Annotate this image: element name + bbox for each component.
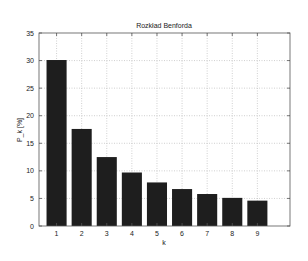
bar-k-4 (122, 173, 142, 226)
bar-k-1 (47, 60, 67, 226)
bar-k-6 (172, 189, 192, 226)
x-tick-label: 1 (55, 230, 59, 237)
x-tick-label: 6 (180, 230, 184, 237)
y-axis-label: P_k [%] (16, 118, 24, 142)
bar-k-3 (97, 157, 117, 226)
y-tick-label: 10 (26, 167, 34, 174)
y-tick-label: 0 (30, 223, 34, 230)
x-tick-label: 5 (155, 230, 159, 237)
x-tick-label: 4 (130, 230, 134, 237)
bar-k-2 (72, 129, 92, 226)
x-tick-label: 9 (255, 230, 259, 237)
bar-k-8 (222, 198, 242, 226)
x-tick-label: 8 (230, 230, 234, 237)
bar-k-9 (247, 201, 267, 226)
chart-title: Rozkład Benforda (136, 22, 192, 29)
x-tick-label: 2 (80, 230, 84, 237)
y-tick-label: 20 (26, 112, 34, 119)
x-tick-label: 7 (205, 230, 209, 237)
y-tick-label: 30 (26, 57, 34, 64)
bar-k-7 (197, 194, 217, 226)
y-tick-label: 35 (26, 30, 34, 37)
bar-k-5 (147, 182, 167, 226)
x-tick-label: 3 (105, 230, 109, 237)
y-tick-label: 5 (30, 195, 34, 202)
x-axis-label: k (162, 239, 166, 246)
y-tick-label: 25 (26, 85, 34, 92)
bar-chart: 05101520253035 123456789 Rozkład Benford… (0, 0, 308, 261)
y-tick-label: 15 (26, 140, 34, 147)
